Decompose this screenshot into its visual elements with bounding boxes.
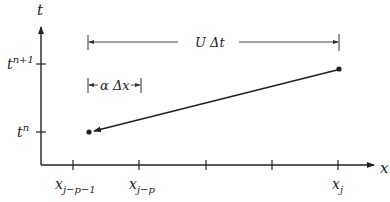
x-axis-label: x [380,159,389,177]
y-tick-label-n-plus-1: tn+1 [7,54,34,72]
alpha-dx-label: α Δx [100,78,130,93]
departure-point [86,129,91,134]
u-dt-label: U Δt [195,35,225,50]
x-tick-label-j: xj [332,176,343,195]
x-tick-label-j-p: xj−p [129,176,155,195]
y-axis-label: t [37,1,44,19]
characteristic-diagram: t x tn+1 tn xj−p−1 xj−p xj U Δt α Δx [0,0,390,202]
diagram-svg: t x tn+1 tn xj−p−1 xj−p xj U Δt α Δx [0,0,390,202]
characteristic-line [94,70,337,131]
x-tick-label-j-p-1: xj−p−1 [55,176,96,195]
arrival-point [336,66,341,71]
y-tick-label-n: tn [17,122,29,140]
